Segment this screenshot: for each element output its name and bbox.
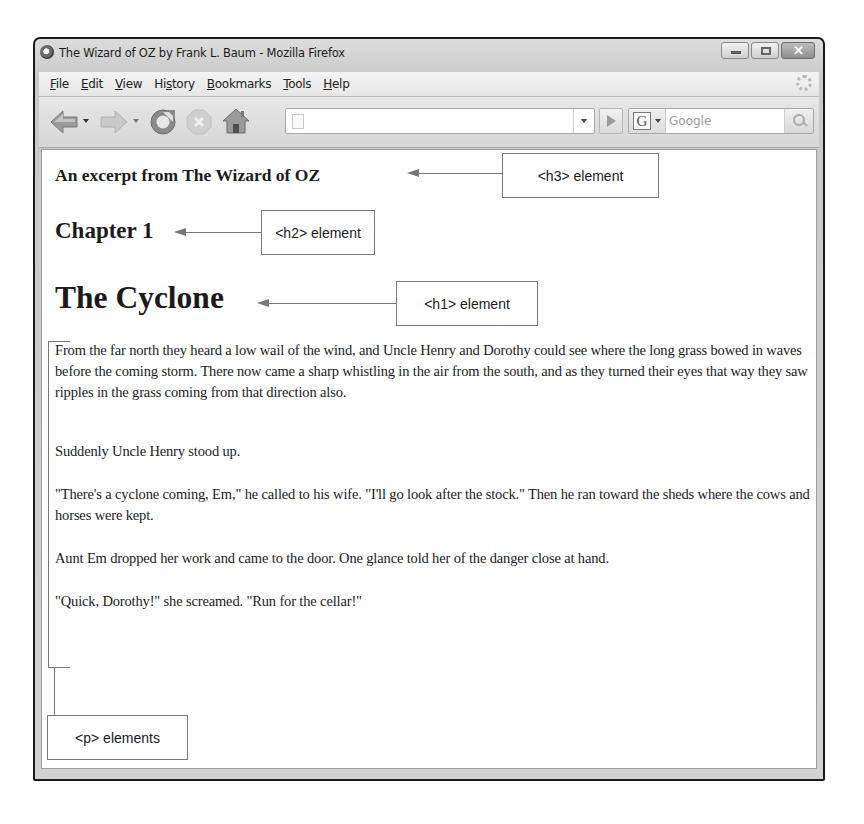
- browser-window: The Wizard of OZ by Frank L. Baum - Mozi…: [33, 37, 825, 781]
- h2-annotation: <h2> element: [261, 210, 375, 255]
- paragraph: Aunt Em dropped her work and came to the…: [55, 548, 815, 569]
- url-history-dropdown[interactable]: [573, 109, 594, 133]
- h2-pointer-line: [184, 232, 262, 233]
- home-icon: [223, 109, 249, 133]
- throbber-icon: [796, 75, 812, 91]
- minimize-icon: [731, 51, 741, 54]
- forward-button[interactable]: [99, 109, 129, 135]
- maximize-button[interactable]: [751, 42, 779, 59]
- close-icon: ✕: [782, 43, 814, 58]
- chevron-down-icon: [655, 119, 661, 123]
- url-bar[interactable]: [285, 108, 595, 134]
- navigation-toolbar: G: [39, 97, 819, 148]
- window-controls: ✕: [721, 42, 815, 59]
- title-bar[interactable]: The Wizard of OZ by Frank L. Baum - Mozi…: [35, 39, 823, 69]
- menu-tools[interactable]: Tools: [277, 76, 317, 92]
- stop-icon: [187, 110, 211, 134]
- heading-h1: The Cyclone: [55, 280, 224, 316]
- home-button[interactable]: [221, 107, 251, 135]
- paragraph: "There's a cyclone coming, Em," he calle…: [55, 484, 815, 526]
- menu-file[interactable]: File: [44, 76, 75, 92]
- menu-items: File Edit View History Bookmarks Tools H…: [44, 76, 355, 92]
- forward-icon: [101, 111, 127, 133]
- url-input[interactable]: [308, 111, 568, 131]
- go-arrow-icon: [607, 115, 616, 127]
- p-bracket-bottom: [48, 667, 70, 668]
- google-icon: G: [633, 112, 651, 130]
- search-button[interactable]: [784, 109, 813, 133]
- paragraph: "Quick, Dorothy!" she screamed. "Run for…: [55, 591, 815, 612]
- menu-bar: File Edit View History Bookmarks Tools H…: [39, 72, 819, 97]
- search-icon-handle: [802, 121, 808, 127]
- paragraph: From the far north they heard a low wail…: [55, 340, 815, 403]
- menu-history[interactable]: History: [148, 76, 201, 92]
- minimize-button[interactable]: [721, 42, 749, 59]
- heading-h3: An excerpt from The Wizard of OZ: [55, 165, 320, 186]
- h3-pointer-line: [417, 173, 502, 174]
- h1-pointer-line: [267, 303, 397, 304]
- window-title: The Wizard of OZ by Frank L. Baum - Mozi…: [59, 46, 345, 60]
- forward-history-dropdown[interactable]: [133, 119, 141, 125]
- menu-bookmarks[interactable]: Bookmarks: [201, 76, 277, 92]
- heading-h2: Chapter 1: [55, 218, 154, 244]
- back-button[interactable]: [49, 109, 81, 135]
- search-input[interactable]: [669, 109, 779, 133]
- p-bracket-side: [48, 341, 49, 667]
- menu-help[interactable]: Help: [317, 76, 355, 92]
- stop-button[interactable]: [185, 108, 213, 136]
- search-engine-selector[interactable]: G: [629, 109, 666, 133]
- h1-annotation: <h1> element: [396, 281, 538, 326]
- p-annotation: <p> elements: [47, 715, 188, 760]
- chevron-down-icon: [581, 119, 587, 123]
- go-button[interactable]: [599, 108, 623, 134]
- back-icon: [51, 111, 77, 133]
- reload-icon: [151, 110, 175, 134]
- back-history-dropdown[interactable]: [83, 119, 91, 125]
- page-icon: [292, 114, 304, 129]
- menu-view[interactable]: View: [109, 76, 148, 92]
- p-bracket-top: [48, 341, 70, 342]
- reload-button[interactable]: [149, 108, 177, 136]
- p-pointer-line: [54, 667, 55, 715]
- search-bar: G: [628, 108, 814, 134]
- page-content: An excerpt from The Wizard of OZ Chapter…: [41, 149, 817, 769]
- paragraph: Suddenly Uncle Henry stood up.: [55, 441, 815, 462]
- close-button[interactable]: ✕: [781, 42, 815, 59]
- firefox-icon: [40, 45, 54, 59]
- maximize-icon: [761, 47, 771, 55]
- h3-annotation: <h3> element: [502, 153, 659, 198]
- menu-edit[interactable]: Edit: [75, 76, 109, 92]
